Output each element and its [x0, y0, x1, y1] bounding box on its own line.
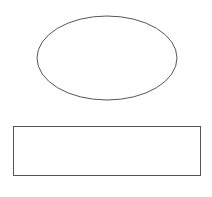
rectangle-shape[interactable] [14, 127, 201, 176]
ellipse-shape[interactable] [37, 16, 177, 100]
diagram-canvas [0, 0, 212, 197]
